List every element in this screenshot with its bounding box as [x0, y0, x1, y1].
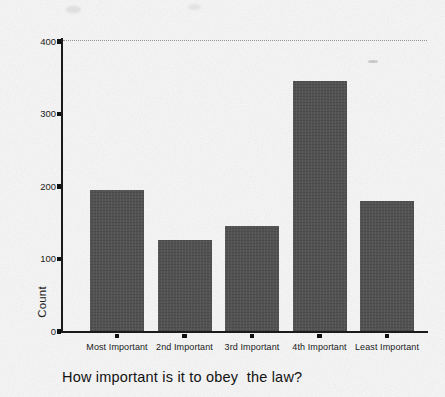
x-category-label: Most Important [82, 342, 152, 352]
y-tick-mark [57, 184, 62, 189]
bar-2nd-important [158, 240, 212, 331]
y-tick-mark [57, 39, 62, 44]
scan-smudge [368, 60, 378, 63]
chart-caption: How important is it to obey the law? [62, 369, 302, 385]
x-tick-mark [115, 334, 120, 339]
scan-smudge [188, 4, 201, 10]
x-tick-mark [385, 334, 390, 339]
y-tick-label: 400 [24, 36, 56, 47]
bar-4th-important [293, 81, 347, 331]
y-axis-line [61, 38, 63, 332]
x-category-label: 2nd Important [150, 342, 220, 352]
bar-most-important [90, 190, 144, 331]
y-tick-label: 100 [24, 253, 56, 264]
y-tick-label: 0 [24, 326, 56, 337]
y-tick-mark [57, 329, 62, 334]
bar-3rd-important [225, 226, 279, 331]
y-tick-label: 200 [24, 181, 56, 192]
x-tick-mark [250, 334, 255, 339]
x-category-label: 3rd Important [217, 342, 287, 352]
scan-grain-overlay [0, 0, 445, 397]
y-tick-mark [57, 257, 62, 262]
gridline-400 [63, 40, 427, 41]
x-tick-mark [182, 334, 187, 339]
x-axis-line [61, 331, 428, 333]
bar-chart-figure: Count How important is it to obey the la… [0, 0, 445, 397]
y-tick-label: 300 [24, 108, 56, 119]
x-category-label: Least Important [352, 342, 422, 352]
y-axis-title: Count [36, 286, 48, 318]
y-tick-mark [57, 112, 62, 117]
scan-smudge [66, 6, 81, 13]
x-category-label: 4th Important [285, 342, 355, 352]
bar-least-important [360, 201, 414, 332]
x-tick-mark [317, 334, 322, 339]
